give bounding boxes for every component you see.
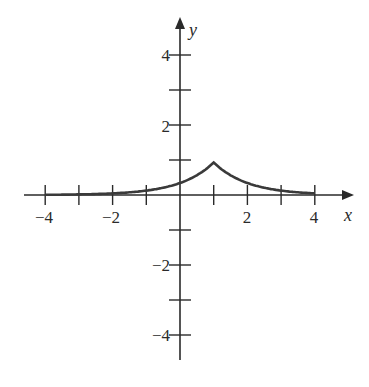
chart: −4 −2 2 4 x 4 2 −2 −4 y bbox=[0, 0, 369, 387]
x-axis-arrow-icon bbox=[342, 190, 354, 200]
y-tick-label: 2 bbox=[162, 117, 171, 136]
y-tick-label: −2 bbox=[152, 256, 170, 275]
y-tick-label: −4 bbox=[152, 326, 171, 345]
x-tick-label: −2 bbox=[102, 208, 120, 227]
y-axis-arrow-icon bbox=[175, 17, 185, 29]
y-axis-label: y bbox=[187, 20, 197, 40]
x-tick-label: −4 bbox=[35, 208, 54, 227]
x-tick-label: 4 bbox=[310, 208, 319, 227]
x-axis-label: x bbox=[343, 205, 352, 225]
x-tick-label: 2 bbox=[243, 208, 252, 227]
y-tick-label: 4 bbox=[162, 46, 171, 65]
